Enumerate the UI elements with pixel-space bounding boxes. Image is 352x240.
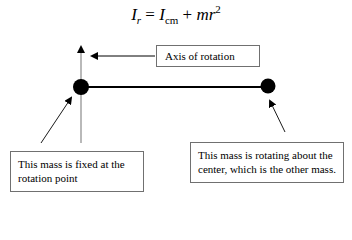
fixed-mass-label: This mass is fixed at the rotation point: [18, 158, 125, 184]
rotating-mass-label-box: This mass is rotating about the center, …: [190, 142, 344, 183]
rotating-mass: [261, 79, 276, 94]
fixed-mass-arrow: [41, 98, 71, 143]
rotating-mass-arrow: [270, 101, 285, 132]
fixed-mass: [73, 79, 89, 95]
axis-label: Axis of rotation: [165, 50, 235, 62]
rotating-mass-label: This mass is rotating about the center, …: [198, 149, 336, 175]
axis-label-box: Axis of rotation: [156, 45, 260, 67]
fixed-mass-label-box: This mass is fixed at the rotation point: [10, 151, 144, 192]
